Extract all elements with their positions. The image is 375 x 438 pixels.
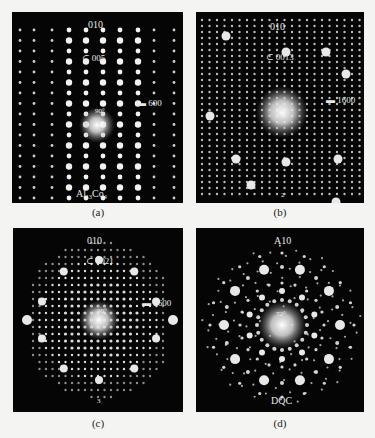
phase-label: DQC [271,396,292,406]
reflection-label-right: ▬ 600 [137,98,162,108]
reflection-label-top: ⊂ 0013 [266,52,294,62]
diffraction-panel-b: 010 ⊂ 0013 ▬ 1600 90° 2 [196,12,364,203]
reflection-index: 0013 [276,52,294,62]
zone-axis-label: 010 [87,236,102,246]
angle-label: 72° [276,309,286,319]
reflection-index: 600 [148,98,162,108]
bottom-mark: 3 [97,396,101,406]
zone-axis-label: A10 [274,236,291,246]
reflection-label-right: ▬ 2600 [142,298,171,308]
diffraction-pattern-d [196,228,364,412]
reflection-label-top: ⊂ 0021 [86,256,114,266]
reflection-label-right: ▬ 1600 [326,95,355,105]
angle-label: 90° [97,306,107,316]
reflection-index: 2600 [153,298,171,308]
caption-a: (a) [78,206,118,218]
phase-subscript: 4 [104,194,107,200]
reflection-index: 1600 [337,95,355,105]
reflection-index: 0021 [96,256,114,266]
reflection-index: 005 [92,53,106,63]
angle-label: 90° [278,105,288,115]
phase-element: Al [76,188,86,199]
zone-axis-label: 010 [88,20,103,30]
diffraction-panel-a: 010 ⊂ 005 ▬ 600 90° Al13Co4 [12,12,183,203]
zone-axis-label: 010 [270,22,285,32]
caption-c: (c) [78,417,118,429]
caption-d: (d) [260,417,300,429]
reflection-label-top: ⊂ 005 [82,53,105,63]
angle-label: 90° [95,106,105,116]
phase-element: Co [92,188,104,199]
diffraction-panel-c: 010 ⊂ 0021 ▬ 2600 90° 3 [13,228,183,412]
caption-b: (b) [260,206,300,218]
phase-label: Al13Co4 [76,189,107,202]
diffraction-panel-d: A10 72° DQC [196,228,364,412]
bottom-mark: 2 [281,190,285,200]
